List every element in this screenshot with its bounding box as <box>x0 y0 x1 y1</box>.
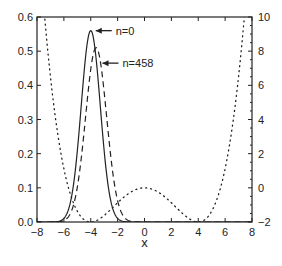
labels-layer: −8−6−4−2024680.00.10.20.30.40.50.6−20246… <box>18 11 271 238</box>
x-tick-label: −2 <box>111 226 124 238</box>
x-tick-label: −6 <box>58 226 71 238</box>
y-right-tick-label: 4 <box>258 114 264 126</box>
y-right-tick-label: 10 <box>258 11 270 23</box>
series-n-458 <box>37 48 252 222</box>
ticks-layer <box>37 17 252 222</box>
x-tick-label: −4 <box>84 226 97 238</box>
y-right-tick-label: 8 <box>258 45 264 57</box>
plot-frame <box>37 17 252 222</box>
y-left-tick-label: 0.0 <box>18 216 33 228</box>
series-potential <box>37 0 252 222</box>
annotation-n-0: n=0 <box>96 25 135 37</box>
arrowhead-icon <box>102 60 108 66</box>
arrowhead-icon <box>96 28 102 34</box>
y-left-tick-label: 0.6 <box>18 11 33 23</box>
y-right-tick-label: 0 <box>258 182 264 194</box>
y-left-tick-label: 0.4 <box>18 79 33 91</box>
y-right-tick-label: −2 <box>258 216 271 228</box>
x-tick-label: 6 <box>222 226 228 238</box>
annotation-label: n=458 <box>122 57 153 69</box>
x-tick-label: 2 <box>168 226 174 238</box>
x-tick-label: 4 <box>195 226 201 238</box>
y-left-tick-label: 0.5 <box>18 45 33 57</box>
annotations-layer: n=0n=458 <box>96 25 154 69</box>
curves-layer <box>37 0 252 222</box>
y-left-tick-label: 0.2 <box>18 148 33 160</box>
chart: −8−6−4−2024680.00.10.20.30.40.50.6−20246… <box>0 0 282 266</box>
y-left-tick-label: 0.3 <box>18 114 33 126</box>
y-right-tick-label: 6 <box>258 79 264 91</box>
y-left-tick-label: 0.1 <box>18 182 33 194</box>
y-right-tick-label: 2 <box>258 148 264 160</box>
annotation-n-458: n=458 <box>102 57 153 69</box>
x-tick-label: 8 <box>249 226 255 238</box>
x-axis-title: x <box>141 235 148 250</box>
annotation-label: n=0 <box>116 25 135 37</box>
